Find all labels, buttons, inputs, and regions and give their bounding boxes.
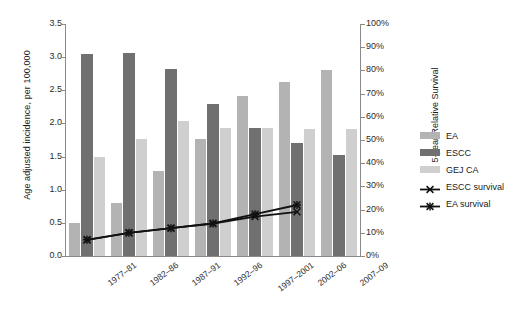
legend-item: EA	[420, 127, 528, 144]
y-tick-right	[361, 117, 365, 118]
y-tick-left	[61, 90, 65, 91]
legend-label: GEJ CA	[446, 165, 479, 175]
y-axis-right-tick-labels: 0%10%20%30%40%50%60%70%80%90%100%	[366, 24, 400, 256]
legend-marker-asterisk	[420, 198, 440, 209]
legend-item: GEJ CA	[420, 161, 528, 178]
y-tick-label-right: 80%	[366, 65, 400, 74]
y-tick-label-right: 40%	[366, 158, 400, 167]
y-tick-right	[361, 233, 365, 234]
y-tick-right	[361, 163, 365, 164]
y-tick-right	[361, 24, 365, 25]
survival-marker-asterisk	[83, 236, 91, 244]
y-tick-right	[361, 256, 365, 257]
y-tick-right	[361, 140, 365, 141]
y-tick-label-left: 3.0	[28, 52, 62, 61]
legend-label: EA	[446, 131, 458, 141]
y-tick-label-left: 1.0	[28, 185, 62, 194]
legend-swatch-gej	[420, 166, 440, 173]
y-tick-label-right: 10%	[366, 228, 400, 237]
legend-label: EA survival	[446, 199, 491, 209]
survival-marker-asterisk	[251, 210, 259, 218]
y-tick-label-left: 2.5	[28, 85, 62, 94]
x-axis-tick-labels: 1977–811982–861987–911992–961997–2001200…	[66, 258, 366, 308]
y-tick-label-left: 0.5	[28, 218, 62, 227]
y-tick-label-left: 3.5	[28, 19, 62, 28]
survival-marker-asterisk	[293, 201, 301, 209]
legend-swatch-ea	[420, 132, 440, 139]
y-tick-right	[361, 70, 365, 71]
y-tick-right	[361, 47, 365, 48]
y-tick-label-right: 60%	[366, 112, 400, 121]
chart-container: Age adjusted incidence, per 100,000 5-ye…	[0, 0, 531, 309]
y-tick-label-right: 20%	[366, 205, 400, 214]
x-tick-label: 1982–86	[148, 260, 180, 288]
y-tick-label-right: 90%	[366, 42, 400, 51]
y-tick-label-left: 1.5	[28, 152, 62, 161]
y-tick-left	[61, 123, 65, 124]
y-tick-label-right: 100%	[366, 19, 400, 28]
y-tick-left	[61, 24, 65, 25]
x-tick-label: 1977–81	[106, 260, 138, 288]
y-tick-label-right: 70%	[366, 89, 400, 98]
y-tick-left	[61, 57, 65, 58]
legend-item: ESCC	[420, 144, 528, 161]
legend-swatch-escc	[420, 149, 440, 156]
y-tick-label-right: 50%	[366, 135, 400, 144]
y-tick-right	[361, 210, 365, 211]
y-tick-left	[61, 223, 65, 224]
y-tick-right	[361, 94, 365, 95]
y-axis-left-tick-labels: 0.00.51.01.52.02.53.03.5	[28, 24, 62, 256]
y-tick-label-left: 0.0	[28, 251, 62, 260]
survival-line	[87, 205, 297, 240]
legend-label: ESCC survival	[446, 182, 504, 192]
y-tick-left	[61, 157, 65, 158]
x-tick-label: 1997–2001	[276, 260, 316, 294]
y-tick-label-left: 2.0	[28, 118, 62, 127]
x-tick-label: 2002–06	[316, 260, 348, 288]
x-tick-label: 2007–09	[358, 260, 390, 288]
y-tick-left	[61, 256, 65, 257]
y-tick-label-right: 0%	[366, 251, 400, 260]
x-tick-label: 1987–91	[190, 260, 222, 288]
y-tick-label-right: 30%	[366, 181, 400, 190]
y-tick-left	[61, 190, 65, 191]
legend-item: EA survival	[420, 195, 528, 212]
survival-marker-asterisk	[125, 229, 133, 237]
legend-marker-x	[420, 181, 440, 192]
y-tick-right	[361, 186, 365, 187]
legend-label: ESCC	[446, 148, 471, 158]
survival-marker-asterisk	[209, 220, 217, 228]
plot-area	[66, 24, 360, 256]
survival-marker-asterisk	[167, 224, 175, 232]
chart-legend: EAESCCGEJ CAESCC survivalEA survival	[420, 127, 528, 212]
x-axis-line	[65, 256, 361, 257]
legend-item: ESCC survival	[420, 178, 528, 195]
survival-line-layer	[66, 24, 360, 256]
x-tick-label: 1992–96	[232, 260, 264, 288]
